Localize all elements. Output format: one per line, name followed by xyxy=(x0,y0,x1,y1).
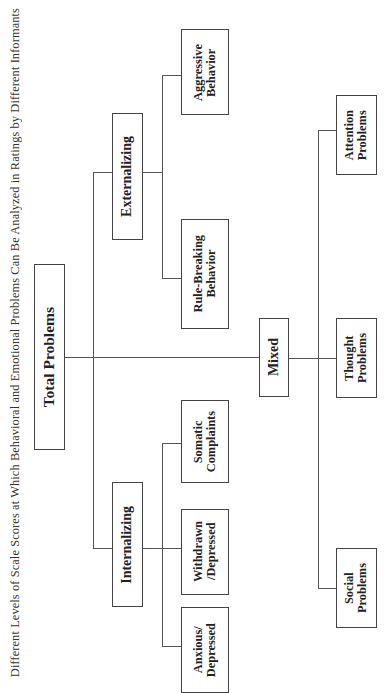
caption-text: Different Levels of Scale Scores at Whic… xyxy=(8,8,23,677)
connector-to-thought xyxy=(318,358,336,359)
connector-to-rule-breaking xyxy=(162,278,181,279)
node-label: Mixed xyxy=(267,338,282,376)
node-label: Anxious/ Depressed xyxy=(192,623,218,677)
connector-to-anxious xyxy=(162,646,181,647)
node-thought-problems: Thought Problems xyxy=(336,318,377,398)
node-total-problems: Total Problems xyxy=(34,264,65,450)
node-rule-breaking-behavior: Rule-Breaking Behavior xyxy=(181,219,229,329)
node-label: Aggressive Behavior xyxy=(192,44,218,101)
connector-internalizing-spine xyxy=(162,443,163,646)
node-attention-problems: Attention Problems xyxy=(336,95,377,175)
node-label: Internalizing xyxy=(120,506,135,584)
node-mixed: Mixed xyxy=(259,318,289,397)
connector-to-internalizing xyxy=(93,548,112,549)
connector-to-social xyxy=(318,588,336,589)
connector-to-externalizing xyxy=(93,172,112,173)
node-label: Attention Problems xyxy=(343,110,369,160)
connector-internalizing-out xyxy=(142,548,162,549)
node-internalizing: Internalizing xyxy=(112,482,143,607)
node-label: Somatic Complaints xyxy=(192,411,218,472)
connector-to-aggressive xyxy=(162,75,181,76)
node-externalizing: Externalizing xyxy=(112,113,143,240)
node-label: Total Problems xyxy=(41,307,57,407)
connector-to-attention xyxy=(318,130,336,131)
connector-mixed-spine xyxy=(318,130,319,588)
connector-externalizing-spine xyxy=(162,75,163,278)
node-label: Social Problems xyxy=(343,563,369,613)
connector-left-spine xyxy=(93,172,94,548)
node-somatic-complaints: Somatic Complaints xyxy=(181,400,229,483)
figure-caption: Different Levels of Scale Scores at Whic… xyxy=(4,0,26,686)
connector-mixed-out xyxy=(288,358,318,359)
connector-to-somatic xyxy=(162,443,181,444)
connector-to-withdrawn xyxy=(162,548,181,549)
node-anxious-depressed: Anxious/ Depressed xyxy=(181,607,229,693)
node-label: Externalizing xyxy=(120,136,135,217)
node-social-problems: Social Problems xyxy=(336,548,377,628)
node-withdrawn-depressed: Withdrawn /Depressed xyxy=(181,509,229,595)
connector-externalizing-out xyxy=(142,172,162,173)
node-label: Thought Problems xyxy=(343,333,369,383)
node-label: Rule-Breaking Behavior xyxy=(192,235,218,313)
node-label: Withdrawn /Depressed xyxy=(192,521,218,582)
node-aggressive-behavior: Aggressive Behavior xyxy=(181,29,229,115)
